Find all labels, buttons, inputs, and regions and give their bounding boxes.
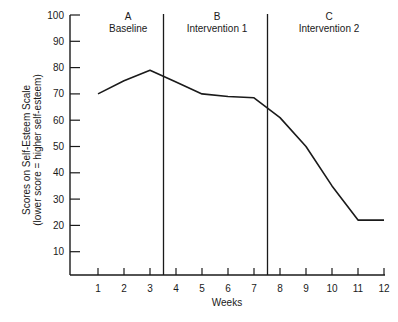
x-axis: 123456789101112 (70, 268, 390, 294)
phase-letter: C (325, 11, 332, 22)
phase-name: Baseline (109, 23, 148, 34)
y-tick-label: 90 (53, 36, 65, 47)
y-tick-label: 10 (53, 246, 65, 257)
x-tick-label: 8 (277, 283, 283, 294)
y-axis: 102030405060708090100 (47, 10, 80, 276)
x-tick-label: 5 (199, 283, 205, 294)
y-tick-label: 30 (53, 194, 65, 205)
y-tick-label: 100 (47, 10, 64, 21)
phase-name: Intervention 2 (299, 23, 360, 34)
phase-letter: A (125, 11, 132, 22)
data-line (98, 70, 384, 220)
line-chart: 102030405060708090100 123456789101112 AB… (0, 0, 398, 322)
phase-name: Intervention 1 (187, 23, 248, 34)
x-tick-label: 3 (147, 283, 153, 294)
x-tick-label: 12 (378, 283, 390, 294)
x-tick-label: 6 (225, 283, 231, 294)
y-tick-label: 20 (53, 220, 65, 231)
phase-labels: ABaselineBIntervention 1CIntervention 2 (109, 11, 360, 34)
y-tick-label: 60 (53, 115, 65, 126)
y-tick-label: 40 (53, 167, 65, 178)
y-tick-label: 80 (53, 62, 65, 73)
x-tick-label: 1 (95, 283, 101, 294)
y-tick-label: 50 (53, 141, 65, 152)
x-tick-label: 11 (353, 283, 364, 294)
y-tick-label: 70 (53, 88, 65, 99)
x-tick-label: 7 (251, 283, 257, 294)
x-axis-title: Weeks (212, 297, 242, 308)
x-tick-label: 4 (173, 283, 179, 294)
phase-letter: B (214, 11, 221, 22)
x-tick-label: 9 (303, 283, 309, 294)
x-tick-label: 10 (326, 283, 338, 294)
y-axis-title: Scores on Self-Esteem Scale (21, 85, 32, 215)
phase-lines (164, 14, 268, 275)
y-axis-subtitle: (lower score = higher self-esteem) (32, 74, 43, 225)
x-tick-label: 2 (121, 283, 127, 294)
